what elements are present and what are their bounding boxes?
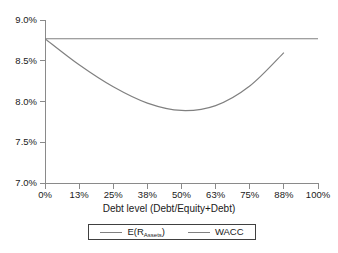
legend-label-e-r-assets: E(RAssets) xyxy=(127,227,165,238)
y-tick-label: 7.0% xyxy=(0,178,37,188)
legend-label-base: E(R xyxy=(127,226,143,237)
legend-item-wacc: WACC xyxy=(188,227,244,237)
legend-swatch-e-r-assets xyxy=(100,232,122,233)
legend-label-wacc: WACC xyxy=(215,227,244,237)
x-axis-line xyxy=(45,183,319,184)
chart-legend: E(RAssets) WACC xyxy=(88,224,256,240)
y-tick-label: 8.5% xyxy=(0,56,37,66)
y-tick-label: 7.5% xyxy=(0,137,37,147)
legend-swatch-wacc xyxy=(188,232,210,233)
chart-figure: 9.0%8.5%8.0%7.5%7.0% 0%13%25%38%50%63%75… xyxy=(0,0,338,253)
x-tick-label: 100% xyxy=(295,190,338,200)
y-tick-label: 8.0% xyxy=(0,97,37,107)
y-tick-label: 9.0% xyxy=(0,15,37,25)
plot-area xyxy=(45,20,318,183)
legend-item-e-r-assets: E(RAssets) xyxy=(100,227,165,238)
legend-label-subscript: Assets xyxy=(144,232,162,238)
series-line-wacc xyxy=(45,39,284,111)
x-axis-title: Debt level (Debt/Equity+Debt) xyxy=(0,203,338,215)
legend-label-tail: ) xyxy=(162,226,165,237)
